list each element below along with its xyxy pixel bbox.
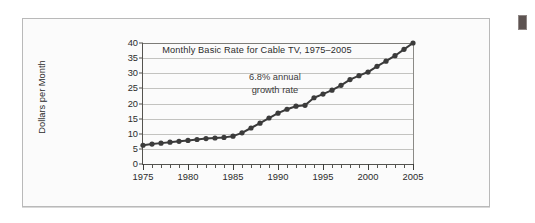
y-tick-label: 35	[128, 53, 138, 63]
data-point	[275, 111, 280, 116]
y-tick-label: 15	[128, 114, 138, 124]
data-point	[221, 135, 226, 140]
data-point	[338, 83, 343, 88]
data-point	[230, 134, 235, 139]
y-tick-label: 40	[128, 38, 138, 48]
x-tick-minor	[152, 164, 153, 168]
x-tick-minor	[386, 164, 387, 168]
growth-rate-annotation: 6.8% annual growth rate	[249, 71, 301, 97]
x-tick-minor	[350, 164, 351, 168]
y-tick-label: 5	[133, 144, 138, 154]
x-tick-minor	[395, 164, 396, 168]
data-point	[401, 47, 406, 52]
data-point	[158, 141, 163, 146]
y-axis-label: Dollars per Month	[37, 37, 47, 157]
data-point	[167, 140, 172, 145]
data-point	[212, 135, 217, 140]
x-tick-label: 1980	[178, 171, 199, 182]
x-tick-minor	[179, 164, 180, 168]
x-tick-minor	[359, 164, 360, 168]
data-point	[176, 139, 181, 144]
x-tick-major	[413, 164, 414, 170]
data-point	[302, 103, 307, 108]
x-tick-minor	[296, 164, 297, 168]
x-tick-minor	[314, 164, 315, 168]
data-point	[374, 64, 379, 69]
data-point	[149, 141, 154, 146]
y-tick-label: 10	[128, 129, 138, 139]
x-tick-minor	[242, 164, 243, 168]
data-point	[257, 121, 262, 126]
x-tick-minor	[377, 164, 378, 168]
x-tick-label: 1995	[313, 171, 334, 182]
x-tick-minor	[287, 164, 288, 168]
x-tick-label: 2000	[358, 171, 379, 182]
x-tick-minor	[161, 164, 162, 168]
x-tick-label: 2005	[403, 171, 424, 182]
x-tick-minor	[224, 164, 225, 168]
data-point	[194, 137, 199, 142]
data-point	[185, 138, 190, 143]
plot-area: 0510152025303540 19751980198519901995200…	[142, 43, 414, 165]
data-point	[266, 115, 271, 120]
x-tick-minor	[170, 164, 171, 168]
data-point	[320, 92, 325, 97]
x-tick-minor	[404, 164, 405, 168]
data-point	[356, 73, 361, 78]
x-tick-minor	[269, 164, 270, 168]
x-tick-major	[143, 164, 144, 170]
figure-panel: Monthly Basic Rate for Cable TV, 1975–20…	[22, 18, 490, 207]
data-point	[203, 136, 208, 141]
data-point	[347, 77, 352, 82]
x-tick-minor	[332, 164, 333, 168]
data-point	[293, 104, 298, 109]
x-tick-minor	[260, 164, 261, 168]
data-point	[140, 143, 145, 148]
x-tick-major	[233, 164, 234, 170]
data-point	[392, 53, 397, 58]
x-tick-minor	[251, 164, 252, 168]
x-tick-major	[278, 164, 279, 170]
data-point	[383, 59, 388, 64]
annotation-line-1: 6.8% annual	[249, 71, 301, 84]
x-tick-minor	[341, 164, 342, 168]
y-tick-label: 25	[128, 83, 138, 93]
y-tick-label: 30	[128, 68, 138, 78]
x-tick-minor	[197, 164, 198, 168]
x-tick-label: 1990	[268, 171, 289, 182]
y-tick-label: 0	[133, 159, 138, 169]
x-tick-major	[368, 164, 369, 170]
x-tick-label: 1985	[223, 171, 244, 182]
data-point	[365, 69, 370, 74]
y-tick-label: 20	[128, 99, 138, 109]
x-tick-major	[188, 164, 189, 170]
data-series	[143, 43, 413, 164]
x-tick-minor	[305, 164, 306, 168]
x-tick-major	[323, 164, 324, 170]
data-point	[284, 107, 289, 112]
data-point	[248, 125, 253, 130]
x-tick-label: 1975	[133, 171, 154, 182]
data-point	[410, 40, 415, 45]
data-point	[329, 88, 334, 93]
page-edge-marker	[518, 15, 527, 30]
x-tick-minor	[206, 164, 207, 168]
data-point	[239, 130, 244, 135]
data-point	[311, 95, 316, 100]
x-tick-minor	[215, 164, 216, 168]
annotation-line-2: growth rate	[249, 84, 301, 97]
